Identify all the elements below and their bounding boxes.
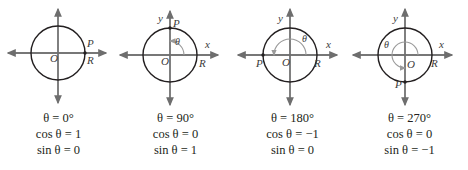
origin-label: O (50, 52, 58, 64)
unit-circle-svg-180: O P R y x θ (234, 0, 351, 112)
panel-180-degrees: O P R y x θ θ = 180° cos θ = −1 sin θ = … (234, 0, 351, 170)
caption-cos: cos θ = 0 (117, 126, 234, 142)
origin-label: O (282, 56, 290, 68)
terminal-point-dot (168, 26, 171, 29)
caption-180-degrees: θ = 180° cos θ = −1 sin θ = 0 (234, 110, 351, 158)
x-axis-label: x (325, 38, 331, 50)
unit-circle-svg-90: O P R y x θ (117, 0, 234, 112)
caption-cos: cos θ = 1 (0, 126, 117, 142)
diagram-90-degrees: O P R y x θ (117, 0, 234, 112)
x-axis-label: x (204, 38, 210, 50)
caption-theta: θ = 270° (351, 110, 468, 126)
point-label-P: P (172, 17, 180, 29)
caption-cos: cos θ = 0 (351, 126, 468, 142)
diagram-0-degrees: O P R (0, 0, 117, 112)
panel-90-degrees: O P R y x θ θ = 90° cos θ = 0 sin θ = 1 (117, 0, 234, 170)
caption-sin: sin θ = 1 (117, 142, 234, 158)
ref-label-R: R (313, 57, 321, 69)
theta-label: θ (384, 39, 389, 50)
point-label-P: P (86, 37, 94, 49)
caption-theta: θ = 0° (0, 110, 117, 126)
diagram-180-degrees: O P R y x θ (234, 0, 351, 112)
ref-label-R: R (430, 57, 438, 69)
caption-sin: sin θ = 0 (234, 142, 351, 158)
panel-270-degrees: O P R y x θ θ = 270° cos θ = 0 sin θ = −… (351, 0, 468, 170)
diagram-270-degrees: O P R y x θ (351, 0, 468, 112)
origin-label: O (161, 55, 169, 67)
unit-circle-svg-270: O P R y x θ (351, 0, 468, 112)
caption-sin: sin θ = −1 (351, 142, 468, 158)
caption-theta: θ = 90° (117, 110, 234, 126)
caption-cos: cos θ = −1 (234, 126, 351, 142)
caption-90-degrees: θ = 90° cos θ = 0 sin θ = 1 (117, 110, 234, 158)
caption-sin: sin θ = 0 (0, 142, 117, 158)
y-axis-label: y (157, 12, 163, 24)
origin-label: O (407, 58, 415, 70)
unit-circle-svg-0: O P R (0, 0, 117, 112)
ref-label-R: R (198, 57, 206, 69)
panel-0-degrees: O P R θ = 0° cos θ = 1 sin θ = 0 (0, 0, 117, 170)
ref-label-R: R (86, 54, 94, 66)
point-label-P: P (255, 57, 263, 69)
theta-label: θ (302, 33, 307, 44)
x-axis-label: x (438, 38, 444, 50)
y-axis-label: y (392, 12, 398, 24)
terminal-point-dot (403, 80, 406, 83)
caption-0-degrees: θ = 0° cos θ = 1 sin θ = 0 (0, 110, 117, 158)
theta-label: θ (175, 36, 180, 47)
caption-270-degrees: θ = 270° cos θ = 0 sin θ = −1 (351, 110, 468, 158)
caption-theta: θ = 180° (234, 110, 351, 126)
y-axis-label: y (277, 12, 283, 24)
unit-circle-figure: O P R θ = 0° cos θ = 1 sin θ = 0 (0, 0, 468, 170)
point-label-P: P (394, 78, 402, 90)
